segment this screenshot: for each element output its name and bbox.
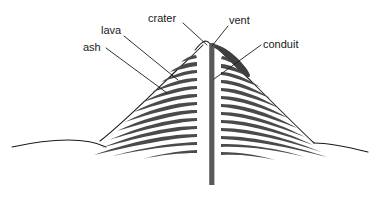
lava-band <box>143 150 197 159</box>
label-vent: vent <box>229 14 250 26</box>
ground-line-right <box>314 143 368 152</box>
label-crater: crater <box>148 12 176 24</box>
lava-flow-wedge <box>212 44 250 77</box>
leader-line-ash <box>106 48 167 93</box>
lava-band <box>221 152 275 160</box>
ground-line-group <box>12 140 368 152</box>
leader-line-crater <box>183 23 207 45</box>
label-conduit: conduit <box>263 38 298 50</box>
lava-band <box>221 144 305 157</box>
volcano-diagram: ash lava crater vent conduit <box>0 0 379 197</box>
right-flank-lava-bands <box>221 56 327 160</box>
labels-group: ash lava crater vent conduit <box>83 12 298 53</box>
label-lava: lava <box>101 24 122 36</box>
left-flank-lava-bands <box>94 55 197 159</box>
volcano-cross-section-svg: ash lava crater vent conduit <box>0 0 379 197</box>
lava-band <box>181 55 197 62</box>
leader-line-vent <box>212 26 228 46</box>
leader-line-lava <box>124 36 178 80</box>
ground-line-left <box>12 140 106 147</box>
label-ash: ash <box>83 41 101 53</box>
conduit-pipe <box>209 43 214 185</box>
lava-band <box>113 142 197 156</box>
